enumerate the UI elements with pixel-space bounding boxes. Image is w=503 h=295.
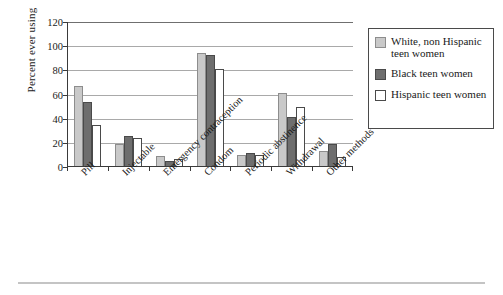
- legend-swatch-icon: [375, 90, 386, 101]
- x-tick-mark: [230, 167, 231, 171]
- legend-swatch-icon: [375, 37, 386, 48]
- x-tick-mark: [312, 167, 313, 171]
- legend-label: Hispanic teen women: [391, 89, 486, 101]
- x-tick-mark: [67, 167, 68, 171]
- x-tick-mark: [149, 167, 150, 171]
- x-tick-mark: [352, 167, 353, 171]
- legend-item: Black teen women: [375, 68, 487, 80]
- y-tick-label-40: 40: [33, 113, 63, 124]
- bar-chart-figure: Percent ever using 020406080100120 PillI…: [0, 0, 503, 295]
- y-tick-label-120: 120: [33, 17, 63, 28]
- y-tick-label-0: 0: [33, 162, 63, 173]
- footer-divider: [18, 282, 485, 284]
- y-tick-label-60: 60: [33, 89, 63, 100]
- legend-box: White, non Hispanic teen womenBlack teen…: [368, 28, 494, 129]
- legend-label: White, non Hispanic teen women: [391, 36, 487, 59]
- x-tick-mark: [271, 167, 272, 171]
- legend-item: White, non Hispanic teen women: [375, 36, 487, 59]
- x-tick-mark: [190, 167, 191, 171]
- y-tick-label-20: 20: [33, 137, 63, 148]
- x-tick-mark: [108, 167, 109, 171]
- y-tick-label-80: 80: [33, 65, 63, 76]
- legend-item: Hispanic teen women: [375, 89, 487, 101]
- legend-swatch-icon: [375, 69, 386, 80]
- legend-label: Black teen women: [391, 68, 473, 80]
- y-tick-label-100: 100: [33, 41, 63, 52]
